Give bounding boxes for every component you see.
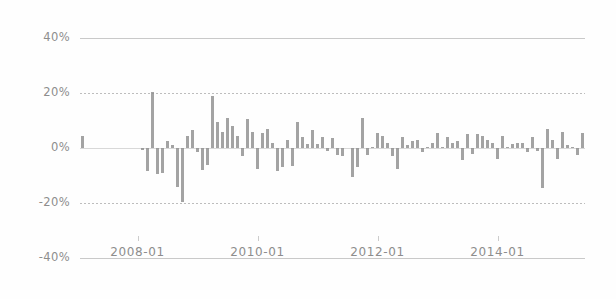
bar: [306, 144, 309, 148]
bar: [416, 140, 419, 148]
bar: [216, 122, 219, 148]
bar: [196, 148, 199, 152]
bar: [276, 148, 279, 171]
bar: [566, 145, 569, 148]
bar: [426, 147, 429, 148]
bar: [436, 133, 439, 148]
bar: [296, 122, 299, 148]
bar: [411, 141, 414, 148]
bar: [311, 130, 314, 148]
bar: [261, 133, 264, 148]
bar: [406, 145, 409, 148]
bar: [81, 136, 84, 148]
bar: [476, 134, 479, 148]
bar: [356, 148, 359, 167]
bar: [301, 137, 304, 148]
bar: [481, 136, 484, 148]
bar: [291, 148, 294, 166]
bar: [386, 143, 389, 149]
bar: [266, 129, 269, 148]
x-axis-tick-mark: [498, 236, 499, 241]
bar: [571, 147, 574, 148]
bar: [156, 148, 159, 174]
bar: [496, 148, 499, 159]
bar: [466, 134, 469, 148]
chart-root: 40%20%0%-20%-40% 2008-012010-012012-0120…: [0, 0, 616, 299]
bar: [561, 132, 564, 149]
bar: [166, 141, 169, 148]
bar: [516, 143, 519, 149]
bar: [446, 137, 449, 148]
bar: [211, 96, 214, 148]
bar: [461, 148, 464, 160]
bar: [581, 133, 584, 148]
bar: [326, 148, 329, 151]
bar: [256, 148, 259, 169]
bar: [151, 92, 154, 148]
bar: [401, 137, 404, 148]
bar: [241, 148, 244, 156]
bar: [231, 126, 234, 148]
bar: [541, 148, 544, 188]
bar: [171, 145, 174, 148]
bar: [391, 148, 394, 156]
bar: [536, 148, 539, 151]
bar: [226, 118, 229, 148]
bar: [271, 143, 274, 149]
bar: [486, 140, 489, 148]
x-axis-tick-mark: [138, 236, 139, 241]
bar: [526, 148, 529, 152]
bar: [236, 136, 239, 148]
bar: [286, 140, 289, 148]
x-axis-tick-mark: [258, 236, 259, 241]
bar: [546, 129, 549, 148]
bar: [251, 132, 254, 149]
bar: [381, 136, 384, 148]
bar: [321, 137, 324, 148]
bar: [431, 143, 434, 149]
bar: [351, 148, 354, 177]
bar: [376, 133, 379, 148]
bar: [451, 143, 454, 149]
bar: [371, 147, 374, 148]
bar: [176, 148, 179, 187]
x-axis-tick-mark: [378, 236, 379, 241]
x-axis-tick-label: 2008-01: [110, 245, 164, 259]
bar: [491, 143, 494, 149]
x-axis-tick-label: 2010-01: [230, 245, 284, 259]
bar: [471, 148, 474, 154]
bar: [191, 130, 194, 148]
bar: [341, 148, 344, 156]
bar: [421, 148, 424, 152]
bar: [281, 148, 284, 167]
bar: [511, 144, 514, 148]
bar: [206, 148, 209, 165]
x-axis-tick-label: 2012-01: [350, 245, 404, 259]
bar: [521, 143, 524, 149]
bar: [146, 148, 149, 171]
bar: [221, 132, 224, 149]
bar: [456, 141, 459, 148]
bar: [366, 148, 369, 155]
x-axis-tick-label: 2014-01: [470, 245, 524, 259]
bar: [531, 137, 534, 148]
bar: [551, 140, 554, 148]
bar: [396, 148, 399, 169]
bar: [186, 136, 189, 148]
bar: [201, 148, 204, 170]
bar: [331, 138, 334, 148]
bar: [441, 147, 444, 148]
bar: [161, 148, 164, 173]
bar: [361, 118, 364, 148]
bar: [141, 148, 144, 150]
bar: [316, 144, 319, 148]
bar: [576, 148, 579, 155]
bar: [556, 148, 559, 159]
bar: [501, 136, 504, 148]
bar: [506, 147, 509, 148]
bar: [181, 148, 184, 202]
bar: [246, 119, 249, 148]
bar: [336, 148, 339, 155]
chart-plot-area: 40%20%0%-20%-40% 2008-012010-012012-0120…: [0, 0, 616, 299]
